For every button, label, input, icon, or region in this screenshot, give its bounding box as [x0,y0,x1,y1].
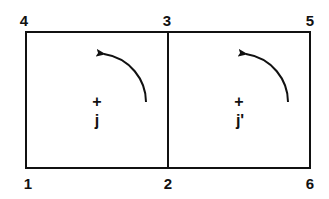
left-center-label: j [94,112,99,129]
left-center-marker: + [92,93,101,110]
node-label-5: 5 [306,12,314,29]
node-label-4: 4 [20,12,29,29]
node-label-3: 3 [163,12,171,29]
right-center-marker: + [234,93,243,110]
right-rotation-arrow-icon [246,54,288,102]
left-rotation-arrow-icon [104,54,146,102]
right-center-label: j' [235,112,244,129]
node-label-6: 6 [306,175,314,192]
two-cell-diagram: + j + j' 4 3 5 1 2 6 [0,0,329,199]
node-label-1: 1 [24,175,32,192]
node-label-2: 2 [164,175,172,192]
